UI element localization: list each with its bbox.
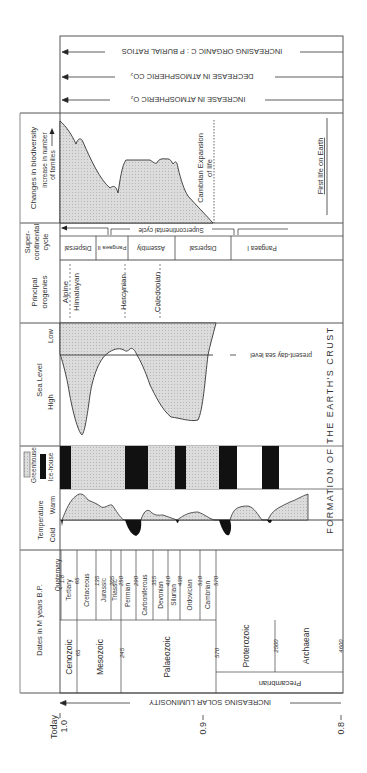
age-250: 250	[118, 575, 124, 587]
temp-warm-label: Warm	[49, 496, 56, 515]
temperature-curve	[60, 494, 343, 536]
super-header-1: Super-	[23, 230, 32, 253]
phase-assembly: Assembly	[136, 244, 165, 252]
o2-label: INCREASE IN ATMOSPHERIC O₂	[130, 95, 245, 104]
age-510: 510	[197, 575, 203, 586]
period-cambrian: Cambrian	[204, 581, 211, 610]
phase-pangaea-2: Pangaea II	[97, 245, 126, 251]
orogeny-himalayan: Himalayan	[72, 273, 81, 311]
era-age-570: 570	[214, 647, 220, 658]
luminosity-tick-0-9: 0.9	[198, 722, 208, 735]
crust-formation-label: FORMATION OF THE EARTH'S CRUST	[325, 326, 335, 534]
era-age-245: 245	[119, 647, 125, 659]
earth-history-diagram: INCREASING ORGANIC C : P BURIAL RATIOS D…	[0, 0, 367, 773]
period-cretaceous: Cretaceous	[83, 573, 90, 607]
period-jurassic: Jurassic	[100, 577, 107, 602]
phase-dispersal-1: Dispersal	[64, 244, 92, 252]
period-permian: Permian	[124, 583, 131, 608]
age-290: 290	[133, 575, 139, 587]
orogeny-alpine: Alpine	[61, 280, 70, 303]
period-devonian: Devonian	[157, 581, 164, 609]
sea-low-label: Low	[46, 329, 55, 343]
first-life-label: First life on Earth	[316, 138, 325, 195]
era-proterozoic: Proterozoic	[241, 624, 251, 668]
era-age-65: 65	[75, 649, 81, 656]
biodiversity-title: Changes in biodiversity	[29, 127, 38, 210]
sea-high-label: High	[46, 394, 55, 409]
luminosity-axis	[60, 713, 341, 720]
age-135: 135	[94, 575, 100, 586]
period-ordovician: Ordovician	[186, 579, 193, 610]
orogeny-markers	[70, 264, 160, 320]
luminosity-tick-1-0: 1.0	[59, 720, 69, 733]
icehouse-legend-label: Ice-house	[47, 452, 54, 481]
age-438: 438	[177, 575, 183, 586]
sea-level-curve	[60, 323, 236, 435]
era-age-4600: 4600	[338, 639, 344, 653]
age-65: 65	[74, 577, 80, 584]
era-mesozoic: Mesozoic	[95, 638, 105, 675]
super-header-3: cycle	[41, 233, 50, 250]
phase-pangaea-1: Pangaea I	[247, 244, 277, 252]
era-archaean: Archaean	[301, 628, 311, 665]
period-silurian: Silurian	[170, 584, 177, 606]
age-355: 355	[151, 575, 157, 586]
biodiversity-sub1: increase in number	[41, 132, 48, 188]
era-palaeozoic: Palaeozoic	[162, 635, 172, 677]
age-410: 410	[165, 575, 171, 586]
period-carboniferous: Carboniferous	[141, 574, 148, 616]
solar-luminosity-label: INCREASING SOLAR LUMINOSITY	[149, 698, 271, 707]
luminosity-tick-0-8: 0.8	[336, 722, 346, 735]
present-sea-level-label: present-day sea level	[250, 351, 312, 359]
temp-cold-label: Cold	[49, 528, 56, 543]
orogenies-header-1: Principal	[30, 277, 39, 306]
dates-header: Dates in M years B.P.	[35, 584, 44, 656]
supercontinent-cycle-label: Supercontinental cycle	[138, 226, 204, 234]
greenhouse-icehouse-bar	[60, 446, 343, 489]
biodiversity-curve	[60, 120, 214, 223]
temperature-header: Temperature	[37, 500, 45, 539]
age-1-8: 1.8	[59, 574, 65, 583]
orogeny-hercynian: Hercynian	[119, 274, 128, 310]
era-cenozoic: Cenozoic	[64, 639, 74, 675]
period-quaternary: Quaternary	[54, 558, 62, 591]
biodiversity-sub2: of families	[49, 150, 56, 180]
increase-arrow-icon	[50, 128, 55, 146]
sea-level-header: Sea Level	[35, 363, 44, 397]
burial-ratio-label: INCREASING ORGANIC C : P BURIAL RATIOS	[122, 47, 283, 56]
cambrian-expansion-label: Cambrian Expansion	[196, 133, 205, 203]
super-header-2: continental	[32, 224, 41, 261]
period-tertiary: Tertiary	[65, 579, 73, 601]
of-life-label: of life	[205, 159, 214, 177]
age-205: 205	[109, 575, 115, 587]
orogeny-caledonian: Caledonian	[153, 272, 162, 312]
eon-precambrian: Precambrian	[259, 679, 302, 688]
age-570: 570	[213, 575, 219, 586]
era-age-2500: 2500	[273, 639, 279, 654]
co2-label: DECREASE IN ATMOSPHERIC CO₂	[130, 72, 253, 81]
greenhouse-legend-label: Greenhouse	[30, 447, 37, 483]
orogenies-header-2: orogenies	[40, 275, 49, 308]
today-label: Today	[49, 715, 59, 740]
phase-dispersal-2: Dispersal	[189, 244, 217, 252]
